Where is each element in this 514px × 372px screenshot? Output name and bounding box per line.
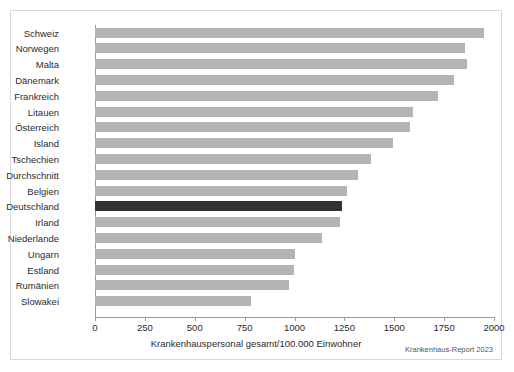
- x-tick-label: 750: [237, 322, 253, 333]
- category-label: Estland: [0, 263, 59, 278]
- x-tick-label: 1500: [384, 322, 405, 333]
- category-label: Tschechien: [0, 152, 59, 167]
- bar: [95, 265, 294, 275]
- bar-row: Island: [95, 136, 494, 152]
- bar-row: Estland: [95, 262, 494, 278]
- category-label: Slowakei: [0, 294, 59, 309]
- bar: [95, 107, 413, 117]
- x-tick-label: 250: [137, 322, 153, 333]
- category-label: Schweiz: [0, 26, 59, 41]
- x-tick: [444, 317, 445, 321]
- x-tick: [195, 317, 196, 321]
- bar-plot-area: SchweizNorwegenMaltaDänemarkFrankreichLi…: [95, 25, 494, 317]
- bar: [95, 186, 347, 196]
- bar-row: Malta: [95, 57, 494, 73]
- bar-row: Irland: [95, 215, 494, 231]
- x-tick: [295, 317, 296, 321]
- bar-row: Dänemark: [95, 72, 494, 88]
- bar: [95, 59, 467, 69]
- bar: [95, 75, 454, 85]
- x-tick: [245, 317, 246, 321]
- bar: [95, 138, 393, 148]
- x-tick-label: 1250: [334, 322, 355, 333]
- category-label: Malta: [0, 57, 59, 72]
- category-label: Dänemark: [0, 73, 59, 88]
- bar-row: Rumänien: [95, 278, 494, 294]
- bar: [95, 201, 342, 211]
- category-label: Frankreich: [0, 89, 59, 104]
- bar-row: Deutschland: [95, 199, 494, 215]
- bar-row: Tschechien: [95, 151, 494, 167]
- bar: [95, 154, 371, 164]
- category-label: Norwegen: [0, 41, 59, 56]
- category-label: Ungarn: [0, 247, 59, 262]
- bar: [95, 91, 438, 101]
- x-tick: [145, 317, 146, 321]
- bar: [95, 296, 251, 306]
- bar: [95, 28, 484, 38]
- category-label: Litauen: [0, 105, 59, 120]
- bar-row: Belgien: [95, 183, 494, 199]
- category-label: Deutschland: [0, 199, 59, 214]
- bar-row: Schweiz: [95, 25, 494, 41]
- category-label: Durchschnitt: [0, 168, 59, 183]
- category-label: Rumänien: [0, 278, 59, 293]
- x-tick-label: 500: [187, 322, 203, 333]
- bar: [95, 249, 295, 259]
- x-tick: [95, 317, 96, 321]
- bar-row: Österreich: [95, 120, 494, 136]
- x-tick-label: 0: [92, 322, 97, 333]
- x-tick: [344, 317, 345, 321]
- category-label: Österreich: [0, 120, 59, 135]
- category-label: Niederlande: [0, 231, 59, 246]
- x-tick-label: 2000: [483, 322, 504, 333]
- bar-row: Frankreich: [95, 88, 494, 104]
- x-tick: [494, 317, 495, 321]
- bar: [95, 170, 358, 180]
- bar-row: Slowakei: [95, 294, 494, 310]
- source-note: Krankenhaus-Report 2023: [405, 345, 493, 354]
- bar-row: Niederlande: [95, 230, 494, 246]
- category-label: Belgien: [0, 184, 59, 199]
- category-label: Irland: [0, 215, 59, 230]
- bar: [95, 43, 465, 53]
- x-tick-label: 1000: [284, 322, 305, 333]
- bar: [95, 217, 340, 227]
- bar-row: Norwegen: [95, 41, 494, 57]
- x-tick: [394, 317, 395, 321]
- chart-frame: SchweizNorwegenMaltaDänemarkFrankreichLi…: [10, 10, 502, 360]
- bar: [95, 280, 289, 290]
- bar-row: Litauen: [95, 104, 494, 120]
- bar: [95, 122, 410, 132]
- x-tick-label: 1750: [434, 322, 455, 333]
- bar-row: Durchschnitt: [95, 167, 494, 183]
- category-label: Island: [0, 136, 59, 151]
- bar: [95, 233, 322, 243]
- bar-row: Ungarn: [95, 246, 494, 262]
